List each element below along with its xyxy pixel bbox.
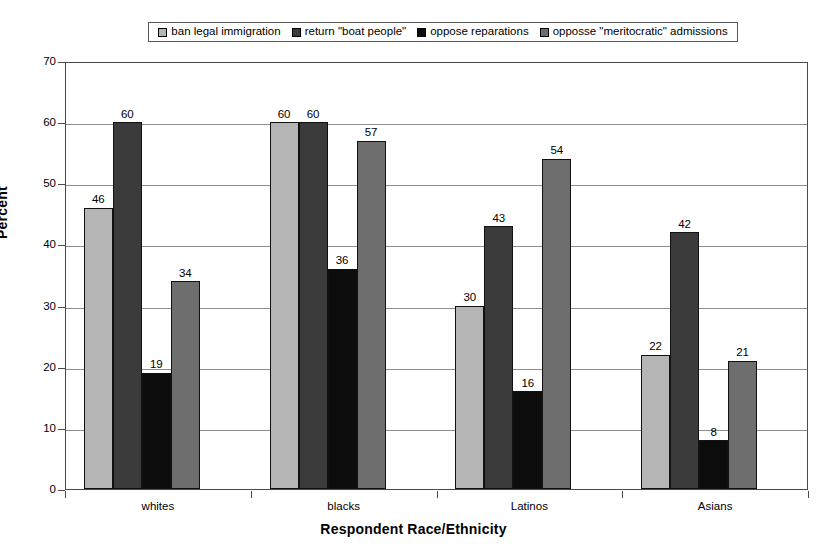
bar-value-label: 16	[521, 378, 534, 390]
y-tick-mark-30	[58, 307, 65, 308]
y-tick-mark-20	[58, 368, 65, 369]
bar-Asians-series-2[interactable]: 42	[670, 232, 699, 489]
legend-swatch-series-1-icon	[158, 28, 167, 37]
y-tick-label-70: 70	[16, 56, 56, 68]
y-tick-label-60: 60	[16, 117, 56, 129]
x-axis-separator-1	[251, 491, 252, 498]
y-tick-mark-70	[58, 62, 65, 63]
y-tick-mark-50	[58, 184, 65, 185]
bar-Asians-series-4[interactable]: 21	[728, 361, 757, 489]
plot-area: 4660193460603657304316542242821	[65, 62, 808, 490]
gridline-50	[66, 185, 807, 186]
y-tick-label-50: 50	[16, 179, 56, 191]
y-tick-label-0: 0	[16, 484, 56, 496]
x-tick-label-Asians: Asians	[698, 500, 733, 512]
bar-value-label: 22	[649, 341, 662, 353]
y-tick-mark-40	[58, 245, 65, 246]
bar-blacks-series-1[interactable]: 60	[270, 122, 299, 489]
x-axis-separator-end	[808, 491, 809, 498]
bar-value-label: 8	[710, 427, 716, 439]
bar-Latinos-series-2[interactable]: 43	[484, 226, 513, 489]
bar-value-label: 46	[92, 194, 105, 206]
x-tick-label-whites: whites	[142, 500, 175, 512]
bar-Asians-series-3[interactable]: 8	[699, 440, 728, 489]
y-tick-label-10: 10	[16, 423, 56, 435]
legend-swatch-series-4-icon	[540, 28, 549, 37]
bar-whites-series-2[interactable]: 60	[113, 122, 142, 489]
chart-legend: ban legal immigrationreturn "boat people…	[148, 22, 738, 42]
bar-Latinos-series-4[interactable]: 54	[542, 159, 571, 489]
x-tick-label-Latinos: Latinos	[511, 500, 548, 512]
legend-label-4: opposse "meritocratic" admissions	[553, 26, 728, 38]
bar-chart: ban legal immigrationreturn "boat people…	[0, 0, 827, 544]
legend-label-2: return "boat people"	[305, 26, 407, 38]
legend-entry-1[interactable]: ban legal immigration	[158, 26, 280, 38]
y-tick-mark-60	[58, 123, 65, 124]
bar-value-label: 21	[736, 347, 749, 359]
bar-value-label: 43	[492, 213, 505, 225]
bar-value-label: 42	[678, 219, 691, 231]
bar-value-label: 60	[307, 109, 320, 121]
bar-value-label: 57	[365, 127, 378, 139]
bar-value-label: 60	[121, 109, 134, 121]
y-tick-label-20: 20	[16, 362, 56, 374]
bar-Latinos-series-1[interactable]: 30	[455, 306, 484, 489]
x-axis-separator-3	[622, 491, 623, 498]
bar-whites-series-3[interactable]: 19	[142, 373, 171, 489]
bar-Asians-series-1[interactable]: 22	[641, 355, 670, 490]
bar-Latinos-series-3[interactable]: 16	[513, 391, 542, 489]
bar-value-label: 60	[278, 109, 291, 121]
bar-blacks-series-3[interactable]: 36	[328, 269, 357, 489]
legend-swatch-series-2-icon	[292, 28, 301, 37]
bar-value-label: 34	[179, 268, 192, 280]
x-tick-label-blacks: blacks	[327, 500, 360, 512]
bar-value-label: 54	[550, 145, 563, 157]
y-axis-title: Percent	[0, 186, 10, 239]
x-axis-separator-2	[437, 491, 438, 498]
legend-swatch-series-3-icon	[417, 28, 426, 37]
legend-entry-2[interactable]: return "boat people"	[292, 26, 407, 38]
y-tick-mark-0	[58, 490, 65, 491]
legend-label-1: ban legal immigration	[171, 26, 280, 38]
x-axis-separator-start	[65, 491, 66, 498]
legend-entry-3[interactable]: oppose reparations	[417, 26, 528, 38]
bar-value-label: 19	[150, 359, 163, 371]
bar-value-label: 30	[463, 292, 476, 304]
bar-blacks-series-4[interactable]: 57	[357, 141, 386, 490]
y-tick-mark-10	[58, 429, 65, 430]
bar-whites-series-1[interactable]: 46	[84, 208, 113, 489]
bar-whites-series-4[interactable]: 34	[171, 281, 200, 489]
y-tick-label-40: 40	[16, 240, 56, 252]
gridline-60	[66, 124, 807, 125]
legend-label-3: oppose reparations	[430, 26, 528, 38]
bar-blacks-series-2[interactable]: 60	[299, 122, 328, 489]
x-axis-title: Respondent Race/Ethnicity	[0, 521, 827, 537]
y-tick-label-30: 30	[16, 301, 56, 313]
legend-entry-4[interactable]: opposse "meritocratic" admissions	[540, 26, 728, 38]
bar-value-label: 36	[336, 255, 349, 267]
